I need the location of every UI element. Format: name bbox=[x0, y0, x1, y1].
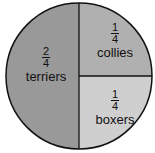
fraction-boxers: 1 4 bbox=[111, 89, 119, 112]
label-boxers: 1 4 boxers bbox=[84, 89, 146, 127]
fraction-terriers: 2 4 bbox=[42, 46, 50, 69]
fraction-collies: 1 4 bbox=[111, 22, 119, 45]
label-collies: 1 4 collies bbox=[84, 22, 146, 60]
label-terriers: 2 4 terriers bbox=[22, 46, 70, 84]
